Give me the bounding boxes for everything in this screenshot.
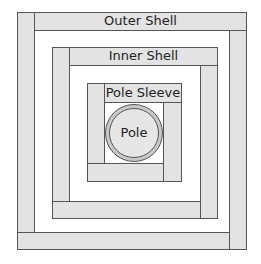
pole-sleeve-left-bar — [87, 83, 105, 164]
inner-shell-label: Inner Shell — [69, 47, 218, 65]
inner-shell-left-bar — [52, 47, 70, 202]
outer-shell-left-bar — [17, 12, 35, 233]
inner-shell-right-bar — [200, 65, 218, 219]
pole-label: Pole — [109, 124, 159, 142]
pole-sleeve-right-bar — [163, 102, 182, 182]
pole-sleeve-label: Pole Sleeve — [104, 84, 182, 102]
outer-shell-label: Outer Shell — [34, 12, 247, 30]
pole-sleeve-bottom-bar — [87, 163, 164, 182]
outer-shell-bottom-bar — [17, 232, 230, 250]
nested-frames-diagram: Outer Shell Inner Shell Pole Sleeve Pole — [0, 0, 261, 264]
outer-shell-right-bar — [229, 30, 247, 250]
inner-shell-bottom-bar — [52, 201, 201, 219]
